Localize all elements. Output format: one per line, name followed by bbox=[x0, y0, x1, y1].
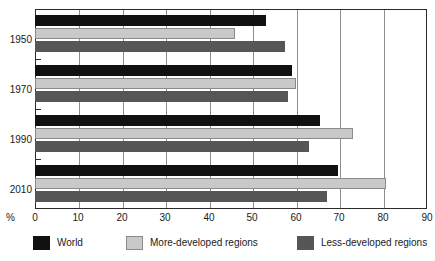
bar-world-2010[interactable] bbox=[35, 165, 338, 176]
x-tick-0: 0 bbox=[32, 212, 38, 224]
x-tick-40: 40 bbox=[203, 212, 214, 224]
bars-layer bbox=[35, 9, 427, 209]
clipped-title-remnant bbox=[60, 0, 360, 2]
x-tick-10: 10 bbox=[72, 212, 83, 224]
y-axis-label-1990: 1990 bbox=[0, 134, 32, 145]
y-axis-label-1950: 1950 bbox=[0, 34, 32, 45]
legend-item-more-developed[interactable]: More-developed regions bbox=[126, 236, 258, 250]
legend-label-more-developed: More-developed regions bbox=[150, 236, 258, 250]
bar-more-developed-1990[interactable] bbox=[35, 128, 353, 139]
x-tick-60: 60 bbox=[290, 212, 301, 224]
legend-label-less-developed: Less-developed regions bbox=[321, 236, 427, 250]
bar-chart: 1950 1970 1990 2010 % 0 10 20 30 40 50 6… bbox=[0, 0, 435, 261]
bar-less-developed-1990[interactable] bbox=[35, 141, 309, 152]
bar-more-developed-2010[interactable] bbox=[35, 178, 386, 189]
y-axis-tick bbox=[35, 109, 41, 110]
legend-swatch-more-developed-icon bbox=[126, 236, 143, 250]
legend-label-world: World bbox=[57, 236, 83, 250]
y-axis-tick bbox=[35, 59, 41, 60]
legend-item-world[interactable]: World bbox=[33, 236, 83, 250]
bar-less-developed-1970[interactable] bbox=[35, 91, 288, 102]
bar-world-1950[interactable] bbox=[35, 15, 266, 26]
y-axis-tick bbox=[35, 159, 41, 160]
x-tick-50: 50 bbox=[246, 212, 257, 224]
y-axis-label-1970: 1970 bbox=[0, 84, 32, 95]
bar-group-1950 bbox=[35, 15, 427, 56]
y-axis-label-2010: 2010 bbox=[0, 184, 32, 195]
legend-swatch-world-icon bbox=[33, 236, 50, 250]
bar-more-developed-1970[interactable] bbox=[35, 78, 296, 89]
bar-world-1970[interactable] bbox=[35, 65, 292, 76]
x-tick-70: 70 bbox=[333, 212, 344, 224]
bar-group-1990 bbox=[35, 115, 427, 156]
x-tick-20: 20 bbox=[116, 212, 127, 224]
bar-less-developed-1950[interactable] bbox=[35, 41, 285, 52]
x-tick-80: 80 bbox=[377, 212, 388, 224]
bar-group-1970 bbox=[35, 65, 427, 106]
bar-more-developed-1950[interactable] bbox=[35, 28, 235, 39]
legend-item-less-developed[interactable]: Less-developed regions bbox=[297, 236, 427, 250]
x-tick-90: 90 bbox=[421, 212, 432, 224]
x-axis-tick-labels: 0 10 20 30 40 50 60 70 80 90 bbox=[0, 212, 435, 226]
chart-legend: World More-developed regions Less-develo… bbox=[0, 236, 435, 258]
bar-less-developed-2010[interactable] bbox=[35, 191, 327, 202]
bar-world-1990[interactable] bbox=[35, 115, 320, 126]
legend-swatch-less-developed-icon bbox=[297, 236, 314, 250]
bar-group-2010 bbox=[35, 165, 427, 206]
x-tick-30: 30 bbox=[159, 212, 170, 224]
